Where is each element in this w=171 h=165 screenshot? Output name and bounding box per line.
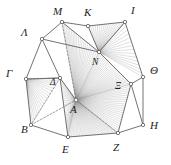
vertex-marker-B bbox=[29, 123, 32, 126]
vertex-marker-Z bbox=[116, 131, 119, 134]
vertex-marker-Lambda bbox=[40, 37, 43, 40]
edge-Lambda-M bbox=[42, 22, 62, 39]
vertex-label-B: B bbox=[21, 124, 28, 135]
vertex-marker-I bbox=[123, 20, 126, 23]
vertex-label-A: A bbox=[70, 104, 77, 115]
edge-H-Z bbox=[118, 125, 143, 133]
vertex-marker-A bbox=[74, 98, 78, 102]
vertex-label-Z: Z bbox=[113, 142, 119, 153]
edge-N-Xi bbox=[99, 52, 131, 84]
vertex-label-M: M bbox=[53, 6, 62, 17]
vertex-marker-Delta bbox=[58, 76, 61, 79]
vertex-marker-Xi bbox=[129, 82, 132, 85]
vertex-label-I: I bbox=[131, 5, 135, 16]
vertex-label-Theta: Θ bbox=[150, 65, 158, 76]
edge-Z-E bbox=[68, 133, 118, 137]
edge-Lambda-Delta bbox=[42, 39, 60, 78]
vertex-label-Gamma: Γ bbox=[6, 68, 12, 79]
vertex-label-K: K bbox=[84, 7, 91, 18]
edge-Lambda-Gamma bbox=[26, 39, 42, 79]
vertex-marker-Gamma bbox=[24, 77, 27, 80]
ray-fan bbox=[99, 22, 143, 77]
edge-I-Theta bbox=[125, 22, 143, 77]
vertex-marker-H bbox=[141, 123, 144, 126]
vertex-marker-E bbox=[66, 135, 69, 138]
vertex-marker-M bbox=[60, 20, 63, 23]
figure-canvas bbox=[0, 0, 171, 165]
vertex-label-H: H bbox=[150, 120, 158, 131]
edge-Xi-H bbox=[131, 84, 143, 125]
vertex-label-Xi: Ξ bbox=[115, 82, 121, 92]
vertex-label-Lambda: Λ bbox=[21, 27, 28, 38]
edge-K-N bbox=[88, 26, 99, 52]
vertex-marker-Theta bbox=[141, 75, 144, 78]
vertex-marker-K bbox=[86, 24, 89, 27]
vertex-label-N: N bbox=[92, 58, 98, 68]
vertex-marker-N bbox=[97, 50, 100, 53]
geometric-figure: MKIΘHZEBΓΛNΞΔA bbox=[0, 0, 171, 165]
vertex-label-E: E bbox=[62, 144, 69, 155]
edge-E-B bbox=[31, 125, 68, 137]
vertex-label-Delta: Δ bbox=[50, 78, 56, 88]
